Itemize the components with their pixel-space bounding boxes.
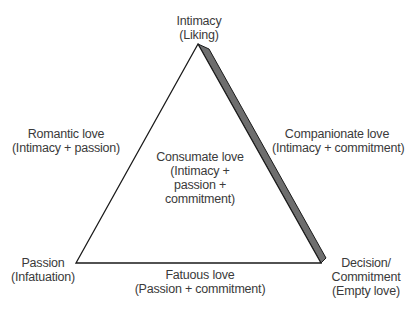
consummate-love-line-2: (Intimacy + [152,164,248,178]
edge-romantic-love-label: Romantic love (Intimacy + passion) [10,127,122,155]
companionate-love-title: Companionate love [272,127,402,141]
vertex-intimacy-label: Intimacy (Liking) [168,14,230,42]
consummate-love-line-3: passion + [152,178,248,192]
companionate-love-subtitle: (Intimacy + commitment) [272,141,402,155]
center-consummate-love-label: Consumate love (Intimacy + passion + com… [152,150,248,206]
vertex-commitment-title-2: Commitment [326,270,406,284]
vertex-intimacy-subtitle: (Liking) [168,28,230,42]
edge-companionate-love-label: Companionate love (Intimacy + commitment… [272,127,402,155]
vertex-intimacy-title: Intimacy [168,14,230,28]
consummate-love-title: Consumate love [152,150,248,164]
vertex-commitment-label: Decision/ Commitment (Empty love) [326,256,406,298]
fatuous-love-subtitle: (Passion + commitment) [132,282,268,296]
romantic-love-title: Romantic love [10,127,122,141]
vertex-passion-label: Passion (Infatuation) [10,256,76,284]
consummate-love-line-4: commitment) [152,192,248,206]
vertex-commitment-subtitle: (Empty love) [326,284,406,298]
vertex-passion-subtitle: (Infatuation) [10,270,76,284]
vertex-passion-title: Passion [10,256,76,270]
fatuous-love-title: Fatuous love [132,268,268,282]
vertex-commitment-title: Decision/ [326,256,406,270]
romantic-love-subtitle: (Intimacy + passion) [10,141,122,155]
edge-fatuous-love-label: Fatuous love (Passion + commitment) [132,268,268,296]
